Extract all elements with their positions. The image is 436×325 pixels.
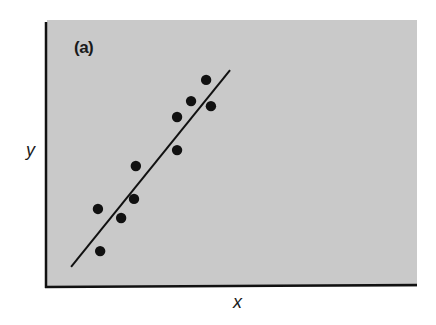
- data-point: [93, 204, 103, 214]
- y-axis-label: y: [26, 140, 35, 161]
- data-point: [201, 75, 211, 85]
- scatter-plot: [0, 0, 436, 325]
- panel-label: (a): [74, 38, 93, 58]
- data-point: [129, 194, 139, 204]
- data-point: [95, 246, 105, 256]
- data-point: [172, 112, 182, 122]
- data-point: [116, 213, 126, 223]
- data-point: [186, 96, 196, 106]
- data-point: [131, 161, 141, 171]
- x-axis-label: x: [233, 292, 242, 313]
- data-point: [206, 101, 216, 111]
- data-point: [172, 145, 182, 155]
